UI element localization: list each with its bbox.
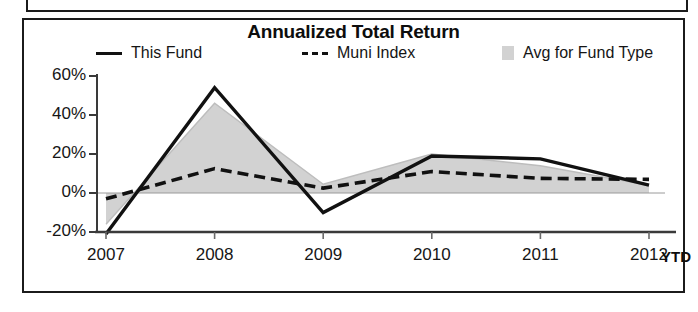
x-tick-label-2007: 2007	[71, 245, 141, 265]
annualized-total-return-chart-panel: Annualized Total Return This Fund Muni I…	[22, 18, 685, 293]
x-tick-label-2011: 2011	[505, 245, 575, 265]
x-axis-ytd-label: YTD	[661, 248, 691, 265]
panel-above-bottom-edge	[26, 0, 688, 12]
y-tick-label-minus-20: -20%	[24, 221, 86, 241]
x-tick-label-2010: 2010	[397, 245, 467, 265]
plot-area: 60% 40% 20% 0% -20% 2007 2008 2009 2010 …	[24, 20, 683, 291]
y-tick-label-20: 20%	[24, 143, 86, 163]
y-tick-label-60: 60%	[24, 65, 86, 85]
x-tick-label-2009: 2009	[288, 245, 358, 265]
y-tick-label-40: 40%	[24, 104, 86, 124]
y-tick-label-0: 0%	[24, 182, 86, 202]
x-tick-label-2008: 2008	[180, 245, 250, 265]
